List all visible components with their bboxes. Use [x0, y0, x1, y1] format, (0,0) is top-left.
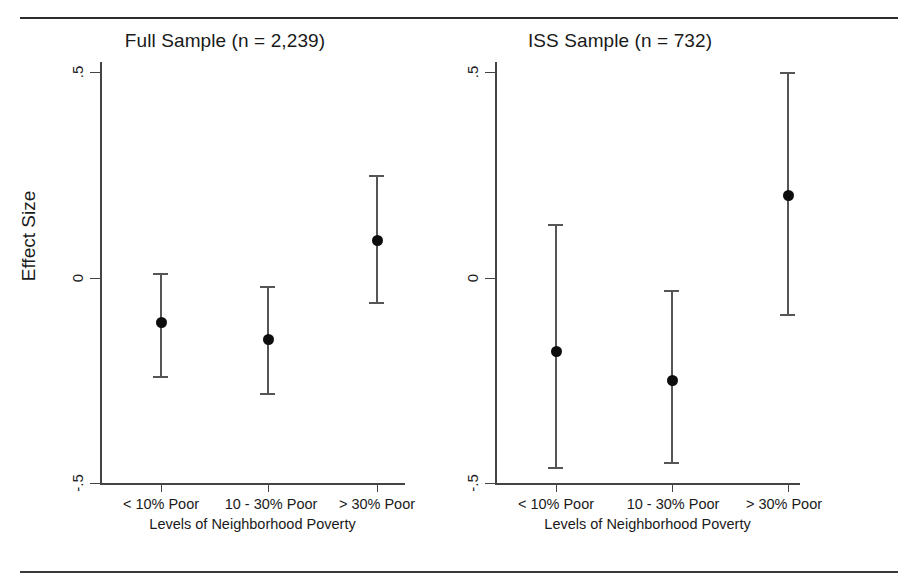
x-tick-label: > 30% Poor [339, 496, 415, 512]
x-tick-mark [556, 484, 557, 492]
error-bar-cap-lower [260, 393, 275, 395]
x-axis-title-iss-sample: Levels of Neighborhood Poverty [495, 516, 800, 532]
data-point-marker [783, 190, 794, 201]
x-tick-label: 10 - 30% Poor [225, 496, 318, 512]
y-axis-line-right [495, 62, 497, 484]
x-tick-mark [672, 484, 673, 492]
error-bar-cap-upper [664, 290, 679, 292]
x-axis-line-right [495, 483, 800, 485]
y-tick-mark [90, 278, 101, 279]
data-point-marker [372, 235, 383, 246]
data-point-marker [156, 317, 167, 328]
y-tick-label: .5 [462, 72, 482, 73]
data-point-marker [263, 334, 274, 345]
error-bar-cap-lower [780, 314, 795, 316]
error-bar-cap-lower [369, 302, 384, 304]
y-tick-label-text: -.5 [464, 474, 481, 492]
figure-container: Full Sample (n = 2,239) Effect Size .5 0… [0, 0, 921, 580]
y-tick-label-text: 0 [69, 274, 86, 282]
data-point-marker [551, 346, 562, 357]
x-axis-title-full-sample: Levels of Neighborhood Poverty [100, 516, 405, 532]
x-tick-label: > 30% Poor [746, 496, 822, 512]
y-tick-label: -.5 [67, 483, 87, 484]
panel-title-iss-sample: ISS Sample (n = 732) [410, 30, 830, 52]
y-tick-label: 0 [462, 278, 482, 279]
error-bar-cap-upper [369, 175, 384, 177]
x-tick-mark [377, 484, 378, 492]
y-tick-label: 0 [67, 278, 87, 279]
panel-full-sample: Full Sample (n = 2,239) Effect Size .5 0… [15, 0, 435, 580]
x-tick-mark [161, 484, 162, 492]
error-bar-cap-upper [548, 224, 563, 226]
error-bar-cap-lower [153, 376, 168, 378]
error-bar-cap-upper [780, 72, 795, 74]
panel-iss-sample: ISS Sample (n = 732) .5 0 -.5 < 10% Poor… [410, 0, 830, 580]
x-tick-label: < 10% Poor [518, 496, 594, 512]
error-bar-cap-upper [153, 273, 168, 275]
error-bar-cap-lower [664, 462, 679, 464]
y-tick-mark [90, 483, 101, 484]
x-tick-label: < 10% Poor [123, 496, 199, 512]
y-tick-mark [90, 72, 101, 73]
y-tick-label-text: 0 [464, 274, 481, 282]
y-tick-mark [485, 483, 496, 484]
y-tick-mark [485, 72, 496, 73]
y-tick-label-text: -.5 [69, 474, 86, 492]
y-tick-mark [485, 278, 496, 279]
y-tick-label-text: .5 [69, 66, 86, 79]
y-axis-title-full-sample: Effect Size [18, 191, 40, 281]
y-tick-label: .5 [67, 72, 87, 73]
y-tick-label-text: .5 [464, 66, 481, 79]
x-axis-line-left [100, 483, 405, 485]
panel-title-full-sample: Full Sample (n = 2,239) [15, 30, 435, 52]
error-bar-cap-upper [260, 286, 275, 288]
data-point-marker [667, 375, 678, 386]
x-tick-mark [788, 484, 789, 492]
y-axis-line-left [100, 62, 102, 484]
y-tick-label: -.5 [462, 483, 482, 484]
x-tick-mark [268, 484, 269, 492]
x-tick-label: 10 - 30% Poor [627, 496, 720, 512]
error-bar-cap-lower [548, 467, 563, 469]
